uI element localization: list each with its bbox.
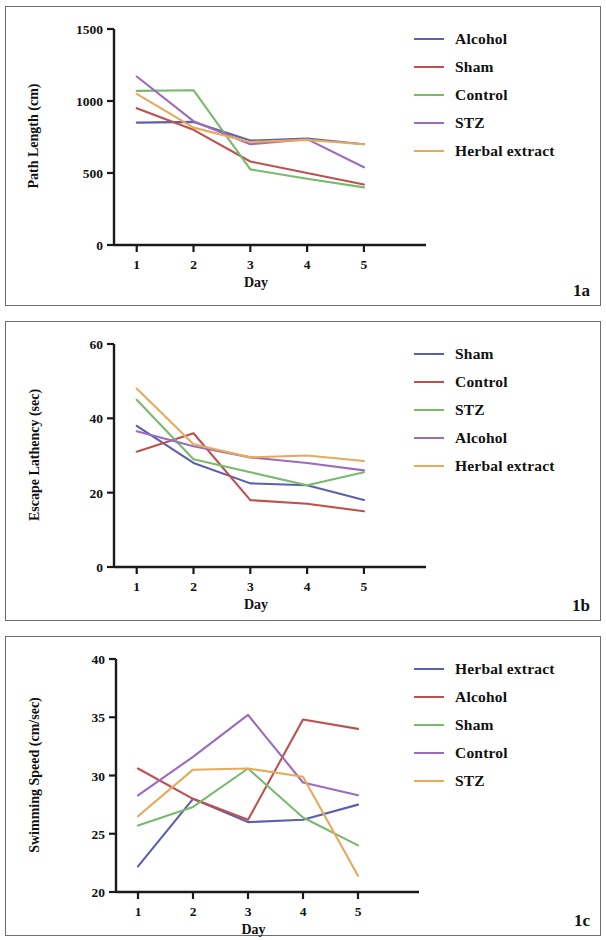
series-line-control — [138, 715, 358, 795]
series-line-herbal-extract — [137, 389, 364, 461]
legend-item-label: Alcohol — [455, 30, 507, 48]
panel-1a: 05001000150012345 Path Length (cm) Day A… — [5, 6, 601, 306]
x-axis-title-1c: Day — [116, 922, 391, 938]
x-tick-label: 3 — [245, 904, 252, 919]
x-tick-label: 2 — [190, 579, 197, 594]
legend-item[interactable]: Herbal extract — [414, 137, 599, 165]
y-tick-label: 35 — [92, 710, 106, 725]
legend-item-label: Control — [455, 373, 508, 391]
series-line-sham — [137, 108, 364, 184]
legend-item[interactable]: Control — [414, 81, 599, 109]
x-tick-label: 4 — [304, 257, 311, 272]
x-tick-label: 1 — [133, 579, 140, 594]
legend-swatch-line-icon — [414, 66, 444, 68]
x-tick-label: 5 — [355, 904, 362, 919]
legend-item-label: Herbal extract — [455, 142, 555, 160]
legend-item-label: Herbal extract — [455, 660, 555, 678]
legend-item-label: Sham — [455, 716, 494, 734]
y-axis-title-1a: Path Length (cm) — [26, 8, 42, 264]
legend-item[interactable]: Sham — [414, 340, 599, 368]
series-line-herbal-extract — [138, 799, 358, 867]
legend-item[interactable]: Sham — [414, 53, 599, 81]
legend-item-label: Alcohol — [455, 429, 507, 447]
legend-swatch-line-icon — [414, 38, 444, 40]
legend-item[interactable]: STZ — [414, 767, 599, 795]
x-tick-label: 2 — [190, 904, 197, 919]
legend-item-label: STZ — [455, 772, 485, 790]
legend-swatch-line-icon — [414, 668, 444, 670]
legend-item[interactable]: Alcohol — [414, 424, 599, 452]
legend-swatch-line-icon — [414, 94, 444, 96]
y-tick-label: 500 — [83, 166, 104, 181]
x-tick-label: 1 — [133, 257, 140, 272]
x-tick-label: 1 — [135, 904, 142, 919]
panel-1c-inner: 202530354012345 Swimming Speed (cm/sec) … — [6, 637, 600, 935]
legend-item[interactable]: Alcohol — [414, 25, 599, 53]
legend-item[interactable]: Control — [414, 368, 599, 396]
legend-item-label: Control — [455, 744, 508, 762]
y-tick-label: 1000 — [76, 94, 103, 109]
legend-swatch-line-icon — [414, 780, 444, 782]
legend-item-label: STZ — [455, 114, 485, 132]
y-tick-label: 0 — [96, 560, 103, 575]
y-tick-label: 60 — [90, 337, 104, 352]
y-tick-label: 25 — [92, 827, 106, 842]
panel-1c: 202530354012345 Swimming Speed (cm/sec) … — [5, 636, 601, 936]
figure-page: 05001000150012345 Path Length (cm) Day A… — [0, 0, 606, 940]
legend-item-label: Control — [455, 86, 508, 104]
legend-item-label: Sham — [455, 58, 494, 76]
x-axis-title-1b: Day — [114, 597, 398, 613]
series-line-control — [137, 90, 364, 187]
legend-item[interactable]: Herbal extract — [414, 655, 599, 683]
y-tick-label: 30 — [92, 769, 106, 784]
panel-1a-inner: 05001000150012345 Path Length (cm) Day A… — [6, 7, 600, 305]
series-line-sham — [138, 769, 358, 846]
legend-1b: ShamControlSTZAlcoholHerbal extract — [414, 340, 599, 480]
panel-label-1b: 1b — [572, 596, 590, 616]
panel-1b-inner: 020406012345 Escape Lathency (sec) Day S… — [6, 322, 600, 620]
x-tick-label: 5 — [361, 579, 368, 594]
y-axis-title-1c: Swimming Speed (cm/sec) — [26, 638, 42, 911]
legend-item[interactable]: STZ — [414, 396, 599, 424]
legend-swatch-line-icon — [414, 122, 444, 124]
legend-item[interactable]: STZ — [414, 109, 599, 137]
legend-item[interactable]: Control — [414, 739, 599, 767]
legend-swatch-line-icon — [414, 752, 444, 754]
x-tick-label: 4 — [304, 579, 311, 594]
legend-item-label: STZ — [455, 401, 485, 419]
legend-item-label: Alcohol — [455, 688, 507, 706]
panel-1b: 020406012345 Escape Lathency (sec) Day S… — [5, 321, 601, 621]
legend-item[interactable]: Alcohol — [414, 683, 599, 711]
legend-1c: Herbal extractAlcoholShamControlSTZ — [414, 655, 599, 795]
y-tick-label: 0 — [96, 238, 103, 253]
x-tick-label: 4 — [300, 904, 307, 919]
panel-label-1a: 1a — [573, 281, 590, 301]
legend-swatch-line-icon — [414, 381, 444, 383]
x-tick-label: 2 — [190, 257, 197, 272]
legend-swatch-line-icon — [414, 724, 444, 726]
y-tick-label: 20 — [92, 885, 106, 900]
legend-swatch-line-icon — [414, 409, 444, 411]
series-line-alcohol — [137, 431, 364, 470]
series-line-stz — [137, 400, 364, 485]
y-axis-title-1b: Escape Lathency (sec) — [26, 323, 42, 586]
x-tick-label: 3 — [247, 579, 254, 594]
x-tick-label: 5 — [361, 257, 368, 272]
series-line-herbal-extract — [137, 94, 364, 144]
legend-item-label: Herbal extract — [455, 457, 555, 475]
legend-swatch-line-icon — [414, 353, 444, 355]
legend-item[interactable]: Sham — [414, 711, 599, 739]
y-tick-label: 40 — [90, 411, 104, 426]
legend-swatch-line-icon — [414, 465, 444, 467]
panel-label-1c: 1c — [574, 911, 590, 931]
legend-item-label: Sham — [455, 345, 494, 363]
legend-1a: AlcoholShamControlSTZHerbal extract — [414, 25, 599, 165]
x-tick-label: 3 — [247, 257, 254, 272]
y-tick-label: 40 — [92, 652, 106, 667]
legend-item[interactable]: Herbal extract — [414, 452, 599, 480]
legend-swatch-line-icon — [414, 696, 444, 698]
y-tick-label: 20 — [90, 486, 104, 501]
y-tick-label: 1500 — [76, 22, 103, 37]
legend-swatch-line-icon — [414, 150, 444, 152]
x-axis-title-1a: Day — [114, 275, 398, 291]
